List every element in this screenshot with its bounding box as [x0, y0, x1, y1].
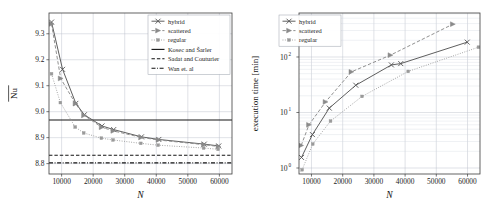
execution-time-plot-ylabel-text: execution time [min]	[250, 56, 260, 131]
series-regular-marker-dot	[74, 126, 77, 129]
x-tick-label: 60000	[210, 177, 229, 186]
series-regular-marker-dot	[329, 120, 332, 123]
series-regular-marker-dot	[100, 137, 103, 140]
series-regular-marker-dot	[311, 143, 314, 146]
convergence-plot-xlabel: N	[136, 189, 144, 200]
figure-container: 1000020000300004000050000600008.88.99.09…	[0, 0, 488, 214]
x-tick-label: 30000	[365, 177, 384, 186]
y-tick-label: 8.9	[35, 133, 45, 142]
y-tick-label: 9.3	[35, 29, 45, 38]
series-regular-marker-dot	[361, 95, 364, 98]
y-tick-label: 8.8	[35, 159, 45, 168]
x-tick-label: 40000	[396, 177, 415, 186]
y-tick-label: 9.1	[35, 81, 45, 90]
x-tick-label: 10000	[302, 177, 321, 186]
x-tick-label: 30000	[115, 177, 134, 186]
legend-label: scattered	[168, 27, 192, 34]
legend-label: regular	[299, 36, 318, 43]
execution-time-plot-legend: hybridscatteredregular	[279, 15, 341, 46]
convergence-plot-legend: hybridscatteredregularKosec and ŠarlerSa…	[148, 15, 230, 74]
series-regular-marker-dot	[157, 144, 160, 147]
series-regular-marker-dot	[139, 142, 142, 145]
x-tick-label: 10000	[52, 177, 71, 186]
series-regular-marker-dot	[50, 72, 53, 75]
execution-time-plot: 100002000030000400005000060000100101102N…	[244, 0, 488, 214]
series-regular-marker-dot	[477, 46, 480, 49]
series-scattered-marker-triangle	[349, 69, 354, 74]
y-tick-label-base: 10	[280, 53, 288, 62]
series-hybrid-marker-x	[327, 106, 332, 111]
series-scattered-marker-triangle	[323, 100, 328, 105]
x-tick-label: 40000	[147, 177, 166, 186]
legend-label: regular	[168, 36, 187, 43]
x-tick-label: 50000	[179, 177, 198, 186]
series-scattered-marker-triangle	[58, 76, 63, 81]
series-scattered-marker-triangle	[450, 22, 455, 27]
y-tick-label-exponent: 1	[288, 106, 291, 112]
series-regular-marker-dot	[202, 147, 205, 150]
y-tick-label-exponent: 2	[288, 51, 291, 57]
series-regular-marker-dot	[112, 139, 115, 142]
x-tick-label: 60000	[458, 177, 477, 186]
y-tick-label: 9.0	[35, 107, 45, 116]
legend-label: hybrid	[168, 18, 185, 25]
execution-time-plot-xlabel: N	[385, 189, 393, 200]
legend-label: Kosec and Šarler	[168, 46, 213, 53]
convergence-plot-ylabel-text: Nu	[9, 88, 19, 99]
series-scattered-marker-triangle	[299, 143, 304, 148]
execution-time-plot-ylabel: execution time [min]	[250, 56, 260, 131]
y-tick-label-exponent: 0	[288, 162, 291, 168]
convergence-plot: 1000020000300004000050000600008.88.99.09…	[0, 0, 244, 214]
y-tick-label-base: 10	[280, 164, 288, 173]
series-regular	[301, 46, 480, 171]
legend-label: Wan et. al	[168, 65, 194, 72]
legend-label: hybrid	[299, 18, 316, 25]
legend-marker-dot	[157, 39, 160, 42]
y-tick-label-base: 10	[280, 108, 288, 117]
series-regular-marker-dot	[82, 132, 85, 135]
x-tick-label: 20000	[84, 177, 103, 186]
legend-label: scattered	[299, 27, 323, 34]
convergence-plot-panel: 1000020000300004000050000600008.88.99.09…	[0, 0, 244, 214]
legend-marker-dot	[288, 39, 291, 42]
series-regular-marker-dot	[59, 101, 62, 104]
series-regular-marker-dot	[301, 168, 304, 171]
series-hybrid-marker-x	[299, 155, 304, 160]
series-regular-marker-dot	[407, 70, 410, 73]
y-tick-label: 9.2	[35, 55, 45, 64]
execution-time-plot-ticks: 100002000030000400005000060000100101102	[280, 51, 477, 186]
legend-label: Sadat and Couturier	[168, 55, 220, 62]
execution-time-plot-panel: 100002000030000400005000060000100101102N…	[244, 0, 488, 214]
x-tick-label: 50000	[427, 177, 446, 186]
series-regular-marker-dot	[217, 148, 220, 151]
x-tick-label: 20000	[333, 177, 352, 186]
series-hybrid-marker-x	[353, 83, 358, 88]
